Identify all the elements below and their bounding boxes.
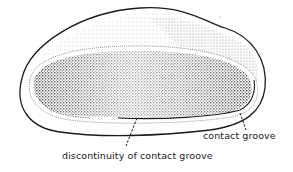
inner-cavity-highlight: [34, 51, 252, 118]
label-contact-groove: contact groove: [203, 130, 276, 141]
stray-dot: [219, 16, 220, 17]
label-discontinuity: discontinuity of contact groove: [62, 150, 213, 161]
specimen-illustration: [0, 0, 293, 172]
